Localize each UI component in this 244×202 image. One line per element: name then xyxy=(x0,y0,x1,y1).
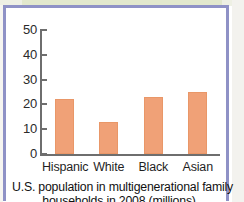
bar xyxy=(188,92,207,154)
caption-line-1: U.S. population in multigenerational fam… xyxy=(12,180,226,194)
plot-area: 01020304050 HispanicWhiteBlackAsian U.S.… xyxy=(6,8,232,202)
y-tick-label-text: 30 xyxy=(7,73,37,86)
x-tick-label: Asian xyxy=(176,160,221,174)
y-tick-label-text: 40 xyxy=(7,48,37,61)
figure-caption: U.S. population in multigenerational fam… xyxy=(12,180,226,202)
bar xyxy=(99,122,118,154)
caption-line-2: households in 2008 (millions) xyxy=(12,194,226,202)
bar-group xyxy=(42,30,220,154)
y-tick-label: 10 xyxy=(6,122,37,135)
y-tick-label: 20 xyxy=(6,97,37,110)
x-tick-label: White xyxy=(87,160,132,174)
y-tick-label: 40 xyxy=(6,48,37,61)
y-tick-label-text: 20 xyxy=(7,97,37,110)
page-right-gutter xyxy=(232,0,244,202)
figure-frame: 01020304050 HispanicWhiteBlackAsian U.S.… xyxy=(3,5,229,201)
bar xyxy=(55,99,74,154)
y-tick-label: 50 xyxy=(6,23,37,36)
y-tick-label: 30 xyxy=(6,73,37,86)
bar xyxy=(144,97,163,154)
x-axis-line xyxy=(40,154,220,156)
x-tick-label: Hispanic xyxy=(42,160,87,174)
y-tick-label-text: 0 xyxy=(7,147,37,160)
chart-figure: 01020304050 HispanicWhiteBlackAsian U.S.… xyxy=(0,0,244,202)
y-tick-label-text: 10 xyxy=(7,122,37,135)
x-tick-label: Black xyxy=(131,160,176,174)
y-tick-label-text: 50 xyxy=(7,23,37,36)
y-tick-label: 0 xyxy=(6,147,37,160)
